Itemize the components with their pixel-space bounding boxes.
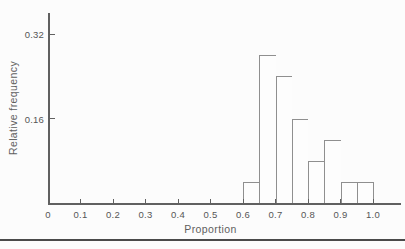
x-axis-label: Proportion [48,223,373,235]
histogram-bar [276,76,292,203]
x-tick-label: 0 [35,209,61,220]
x-tick-label: 0.6 [230,209,256,220]
histogram-bar [324,140,340,203]
histogram-bar [341,182,357,203]
y-axis-line [48,13,50,205]
histogram-bar [357,182,374,203]
histogram-bar [259,55,275,203]
x-tick-mark [113,199,114,203]
x-tick-label: 0.1 [68,209,94,220]
x-axis-line [48,203,401,205]
y-tick-mark [49,118,55,119]
histogram-bar [243,182,259,203]
histogram-bar [292,119,308,203]
x-tick-label: 0.9 [328,209,354,220]
x-tick-mark [275,199,276,203]
x-tick-mark [210,199,211,203]
x-tick-label: 0.8 [295,209,321,220]
y-tick-mark [49,34,55,35]
x-tick-mark [80,199,81,203]
x-tick-label: 0.7 [263,209,289,220]
y-tick-label: 0.16 [16,114,44,125]
x-tick-mark [145,199,146,203]
x-tick-mark [178,199,179,203]
x-tick-mark [243,199,244,203]
figure-container: Relative frequency 00.10.20.30.40.50.60.… [0,0,405,249]
x-tick-mark [373,199,374,203]
x-tick-label: 0.4 [165,209,191,220]
y-tick-label: 0.32 [16,29,44,40]
histogram-bar [308,161,324,203]
plot-area: 00.10.20.30.40.50.60.70.80.91.00.160.32 [0,0,405,249]
page-rule [0,239,405,241]
x-tick-label: 1.0 [360,209,386,220]
x-tick-mark [340,199,341,203]
x-tick-mark [308,199,309,203]
x-tick-label: 0.5 [198,209,224,220]
x-tick-label: 0.2 [100,209,126,220]
x-tick-label: 0.3 [133,209,159,220]
